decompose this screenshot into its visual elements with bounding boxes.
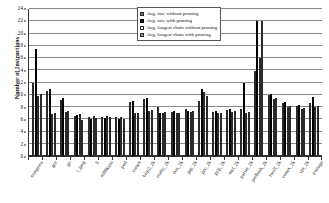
legend-item: Avg. size with pruning — [140, 17, 217, 24]
x-tick-label: vortex — [131, 160, 142, 173]
y-tick-mark — [24, 9, 26, 10]
y-tick-label: 2 — [20, 142, 23, 147]
bar-group — [113, 9, 127, 156]
y-tick-label: 4 — [20, 130, 23, 135]
x-tick-label: mcf_2k — [227, 160, 240, 175]
legend: Avg. size without pruningAvg. size with … — [137, 7, 221, 41]
bar — [123, 119, 125, 156]
bar-group — [238, 9, 252, 156]
x-tick-label: m88ksim — [99, 160, 114, 178]
x-tick-label: i_jpeg — [75, 160, 86, 173]
y-tick-mark — [24, 46, 26, 47]
x-tick-label: eon_2k — [171, 160, 184, 175]
y-tick-label: 18 — [18, 43, 23, 48]
bar-group — [58, 9, 72, 156]
y-tick-label: 10 — [18, 93, 23, 98]
x-tick-label: compress — [29, 160, 44, 178]
y-tick-label: 8 — [20, 105, 23, 110]
x-tick-label: gcc_2k — [200, 160, 212, 175]
y-axis-tick-labels: 024681012141618202224 — [0, 9, 26, 157]
x-tick-label: go — [65, 160, 72, 167]
legend-label: Avg. size without pruning — [147, 11, 199, 17]
bar — [206, 96, 208, 156]
y-tick-mark — [24, 33, 26, 34]
bar-group — [99, 9, 113, 156]
bar — [234, 111, 236, 156]
bar-chart: Number of Instructions 02468101214161820… — [0, 0, 329, 203]
x-tick-label: gcc — [50, 160, 58, 169]
legend-swatch — [140, 33, 144, 37]
bar — [54, 113, 56, 156]
bar — [137, 113, 139, 156]
bar-group — [72, 9, 86, 156]
bar-group — [252, 9, 266, 156]
x-tick-label: crafty_2k — [155, 160, 170, 179]
bar — [275, 98, 277, 156]
y-tick-label: 0 — [20, 154, 23, 159]
legend-swatch — [140, 26, 144, 30]
bar — [248, 112, 250, 156]
bar — [220, 113, 222, 156]
legend-item: Avg. longest chain with pruning — [140, 31, 217, 38]
legend-label: Avg. longest chain without pruning — [147, 25, 218, 31]
bar — [317, 106, 319, 156]
legend-item: Avg. longest chain without pruning — [140, 24, 217, 31]
bar-group — [30, 9, 44, 156]
y-tick-label: 20 — [18, 31, 23, 36]
bar — [178, 113, 180, 156]
x-tick-label: vortex_2k — [280, 160, 296, 179]
bar-group — [279, 9, 293, 156]
bar-group — [307, 9, 321, 156]
legend-swatch — [140, 19, 144, 23]
y-tick-mark — [24, 157, 26, 158]
bar — [151, 110, 153, 156]
bar-group — [293, 9, 307, 156]
x-tick-label: gap_2k — [185, 160, 198, 175]
legend-label: Avg. longest chain with pruning — [147, 32, 211, 38]
y-tick-label: 6 — [20, 117, 23, 122]
y-tick-mark — [24, 70, 26, 71]
y-tick-mark — [24, 21, 26, 22]
y-tick-label: 24 — [18, 6, 23, 11]
y-tick-mark — [24, 132, 26, 133]
x-tick-label: vpr_2k — [298, 160, 310, 174]
x-tick-label: li — [94, 160, 100, 165]
legend-swatch — [140, 12, 144, 16]
bar-group — [85, 9, 99, 156]
x-tick-label: gzip_2k — [213, 160, 226, 176]
bar — [109, 117, 111, 156]
bar — [95, 118, 97, 156]
y-tick-mark — [24, 95, 26, 96]
bar-group — [224, 9, 238, 156]
y-tick-label: 14 — [18, 68, 23, 73]
bar — [192, 111, 194, 156]
y-tick-mark — [24, 144, 26, 145]
legend-item: Avg. size without pruning — [140, 10, 217, 17]
bar — [40, 94, 42, 156]
x-axis-tick-labels: compressgccgoi_jpeglim88ksimperlvortexbz… — [28, 160, 322, 203]
bar — [67, 111, 69, 156]
y-tick-label: 16 — [18, 56, 23, 61]
bar-group — [44, 9, 58, 156]
x-tick-label: perl — [119, 160, 128, 169]
bar — [261, 21, 263, 156]
y-tick-label: 22 — [18, 19, 23, 24]
y-tick-mark — [24, 83, 26, 84]
bar-group — [266, 9, 280, 156]
y-tick-mark — [24, 107, 26, 108]
y-tick-label: 12 — [18, 80, 23, 85]
bar — [81, 120, 83, 156]
y-tick-mark — [24, 120, 26, 121]
x-tick-label: average — [311, 160, 324, 176]
legend-label: Avg. size with pruning — [147, 18, 192, 24]
bar — [164, 112, 166, 156]
y-tick-mark — [24, 58, 26, 59]
bar — [289, 106, 291, 156]
bar — [303, 108, 305, 156]
